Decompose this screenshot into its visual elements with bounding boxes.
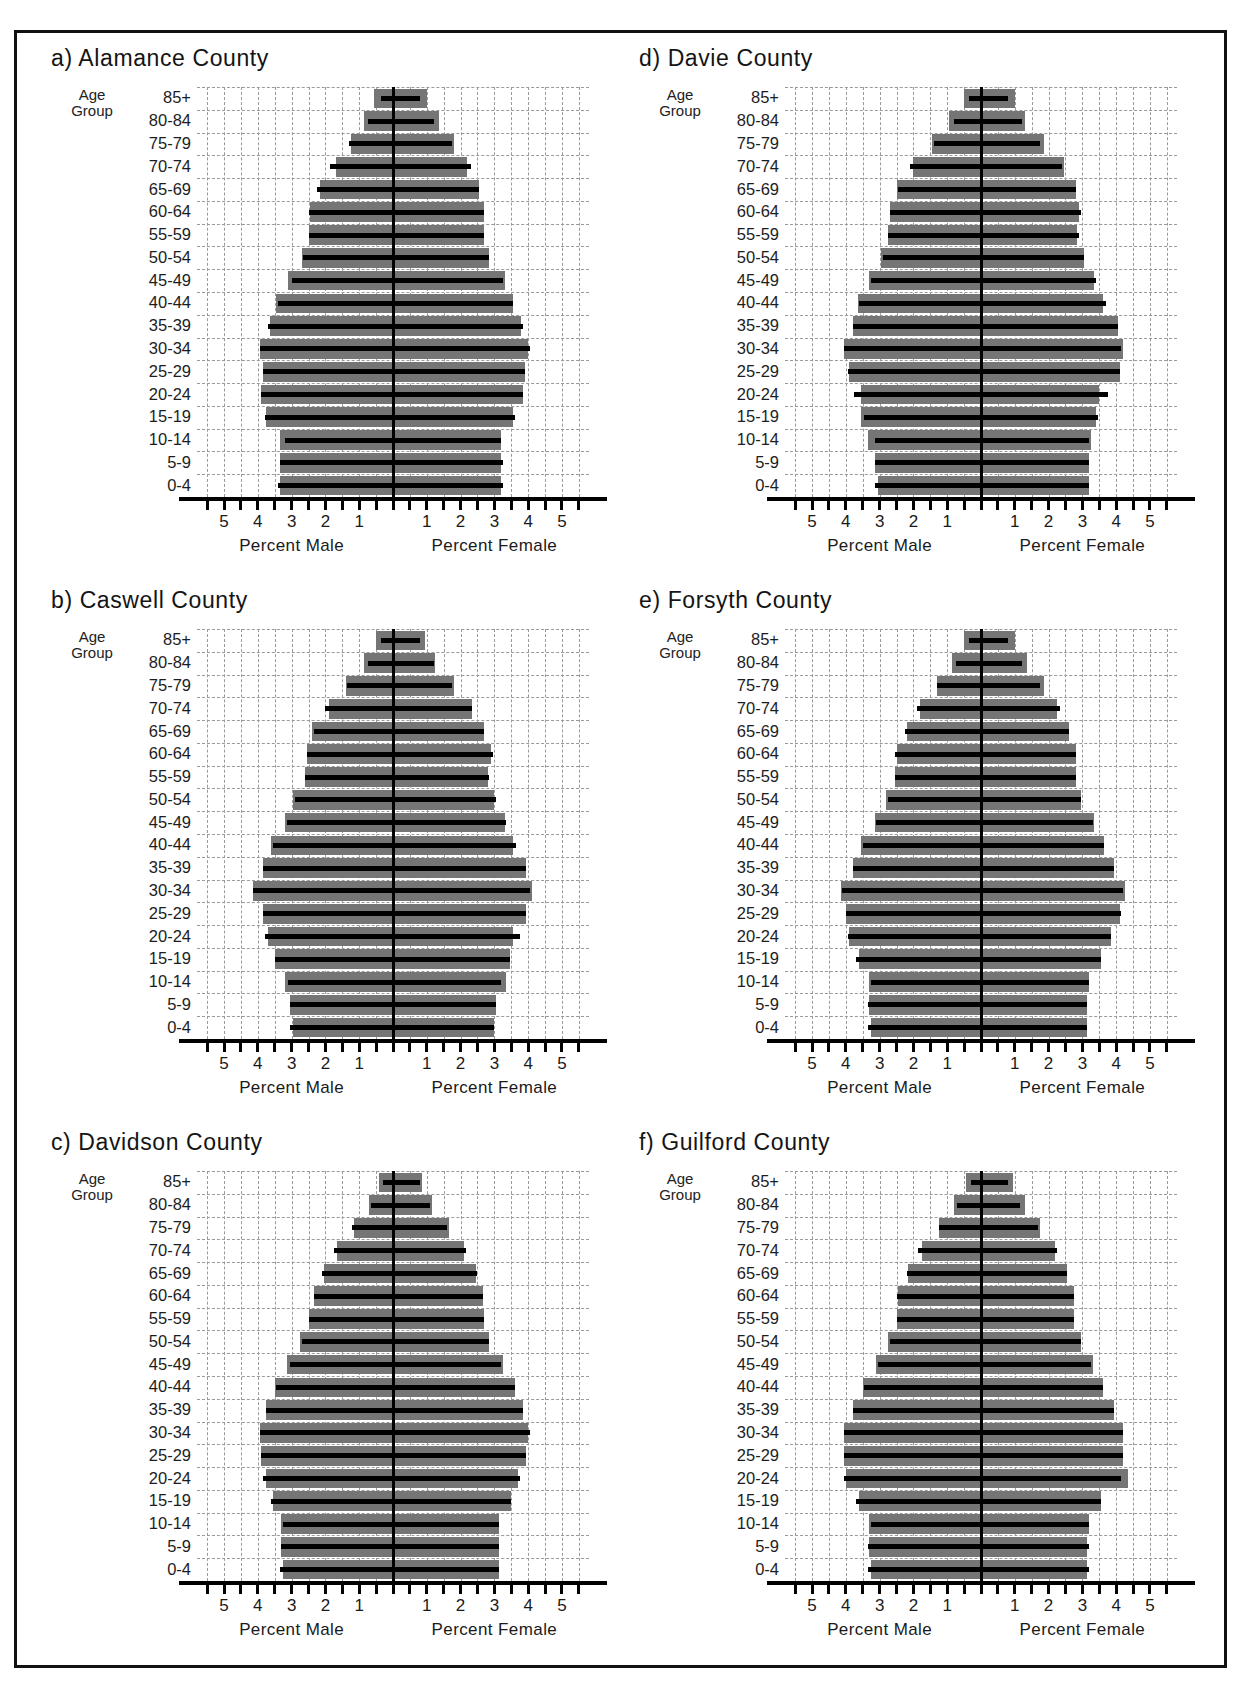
- x-axis-tick: [827, 1039, 830, 1052]
- x-tick-label-male: 3: [287, 1596, 296, 1616]
- age-group-tick-label: 20-24: [149, 927, 191, 946]
- age-group-tick-label: 30-34: [149, 881, 191, 900]
- x-tick-label-female: 4: [1111, 1054, 1120, 1074]
- x-axis-tick: [1115, 497, 1118, 510]
- panel-title-d: d) Davie County: [639, 45, 813, 72]
- age-group-tick-label: 35-39: [737, 316, 779, 335]
- x-axis-tick: [1013, 497, 1016, 510]
- x-axis-tick: [963, 1581, 966, 1594]
- x-axis-tick: [358, 497, 361, 510]
- x-axis-tick: [425, 1581, 428, 1594]
- x-axis-tick: [375, 1581, 378, 1594]
- age-group-tick-label: 65-69: [737, 180, 779, 199]
- reference-line: [273, 843, 516, 848]
- age-group-tick-label: 10-14: [149, 972, 191, 991]
- x-axis-tick: [273, 1581, 276, 1594]
- reference-line: [263, 911, 527, 916]
- age-group-tick-label: 65-69: [737, 722, 779, 741]
- age-group-tick-label: 85+: [163, 88, 191, 107]
- age-group-tick-label: 40-44: [149, 1377, 191, 1396]
- x-tick-label-male: 5: [807, 512, 816, 532]
- reference-line: [848, 369, 1120, 374]
- age-group-tick-label: 50-54: [149, 790, 191, 809]
- x-axis-label-male: Percent Male: [239, 1620, 344, 1640]
- x-tick-label-female: 2: [1044, 1054, 1053, 1074]
- age-group-tick-label: 75-79: [737, 676, 779, 695]
- plot-area-c: 5432112345Percent MalePercent Female: [197, 1171, 589, 1581]
- x-axis-tick: [510, 497, 513, 510]
- reference-line: [263, 866, 527, 871]
- x-axis-tick: [341, 1039, 344, 1052]
- reference-line: [368, 661, 434, 666]
- reference-line: [897, 1317, 1074, 1322]
- x-axis-tick: [256, 1581, 259, 1594]
- reference-line: [868, 1002, 1088, 1007]
- age-group-tick-label: 70-74: [737, 1241, 779, 1260]
- age-group-tick-label: 75-79: [737, 134, 779, 153]
- age-group-tick-label: 25-29: [149, 1446, 191, 1465]
- x-tick-label-male: 1: [354, 512, 363, 532]
- reference-line: [895, 752, 1076, 757]
- x-tick-label-female: 5: [557, 1596, 566, 1616]
- x-axis-tick: [510, 1039, 513, 1052]
- x-axis-tick: [1081, 1039, 1084, 1052]
- center-axis-line: [392, 629, 395, 1039]
- x-axis-tick: [1098, 1581, 1101, 1594]
- x-axis-tick: [980, 1581, 983, 1594]
- reference-line: [309, 210, 485, 215]
- x-axis-tick: [239, 497, 242, 510]
- panel-title-c: c) Davidson County: [51, 1129, 263, 1156]
- center-axis-line: [980, 1171, 983, 1581]
- x-tick-label-male: 2: [909, 1596, 918, 1616]
- age-group-tick-label: 20-24: [737, 385, 779, 404]
- reference-line: [381, 96, 420, 101]
- x-axis-tick: [442, 1581, 445, 1594]
- x-axis-tick: [408, 497, 411, 510]
- x-axis-tick: [408, 1039, 411, 1052]
- reference-line: [322, 1271, 477, 1276]
- reference-line: [278, 483, 503, 488]
- x-axis-tick: [459, 1581, 462, 1594]
- age-group-tick-label: 30-34: [149, 1423, 191, 1442]
- reference-line: [381, 638, 420, 643]
- reference-line: [302, 1339, 490, 1344]
- age-group-tick-label: 35-39: [737, 1400, 779, 1419]
- x-axis-tick: [527, 1039, 530, 1052]
- age-group-tick-label: 75-79: [149, 134, 191, 153]
- x-axis-tick: [324, 1039, 327, 1052]
- x-tick-label-female: 2: [456, 1054, 465, 1074]
- x-tick-label-female: 1: [1010, 1596, 1019, 1616]
- x-axis-tick: [844, 497, 847, 510]
- x-axis-tick: [996, 1581, 999, 1594]
- x-axis-tick: [878, 497, 881, 510]
- x-axis-tick: [493, 497, 496, 510]
- reference-line: [842, 888, 1122, 893]
- x-axis-tick: [1047, 497, 1050, 510]
- x-tick-label-female: 5: [557, 1054, 566, 1074]
- panel-title-a: a) Alamance County: [51, 45, 269, 72]
- x-tick-label-male: 3: [287, 1054, 296, 1074]
- age-group-tick-label: 0-4: [755, 1560, 779, 1579]
- age-group-tick-label: 80-84: [149, 1195, 191, 1214]
- x-axis-tick: [895, 497, 898, 510]
- age-group-tick-label: 75-79: [149, 676, 191, 695]
- x-axis-tick: [527, 1581, 530, 1594]
- x-tick-label-female: 5: [1145, 512, 1154, 532]
- x-axis-label-male: Percent Male: [239, 536, 344, 556]
- age-group-tick-label: 0-4: [755, 1018, 779, 1037]
- x-axis-tick: [1098, 1039, 1101, 1052]
- x-axis-tick: [980, 497, 983, 510]
- x-tick-label-female: 4: [1111, 1596, 1120, 1616]
- age-group-tick-label: 50-54: [737, 1332, 779, 1351]
- x-axis-tick: [929, 1581, 932, 1594]
- x-axis-label-male: Percent Male: [827, 536, 932, 556]
- age-group-tick-label: 80-84: [737, 111, 779, 130]
- age-group-tick-label: 60-64: [737, 1286, 779, 1305]
- x-axis-tick: [273, 497, 276, 510]
- age-group-tick-label: 70-74: [149, 699, 191, 718]
- reference-line: [265, 415, 515, 420]
- age-group-tick-label: 45-49: [737, 271, 779, 290]
- x-axis-tick: [1047, 1581, 1050, 1594]
- reference-line: [883, 255, 1084, 260]
- age-group-tick-label: 65-69: [149, 180, 191, 199]
